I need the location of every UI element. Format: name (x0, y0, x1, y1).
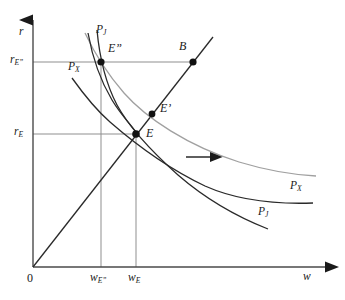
curve-label-pj-top: PJ (96, 24, 106, 37)
w-axis-label: w (303, 271, 311, 283)
diagram-svg (0, 0, 345, 300)
tick-label-w-low: wE” (90, 272, 107, 285)
curve-label-px-right: PX (290, 180, 302, 193)
curve-px-right-sub: X (297, 184, 302, 193)
point-B-marker (189, 58, 196, 65)
point-label-E: E (146, 127, 153, 139)
curve-px (72, 78, 313, 203)
curve-pj-right-sub: J (265, 210, 268, 219)
point-label-E1: E’ (160, 102, 171, 114)
figure-canvas: r w 0 rE” rE wE” wE E” B E’ E PJ PX PX P… (0, 0, 345, 300)
point-label-B: B (179, 40, 186, 52)
tick-w-high-sub: E (136, 276, 141, 285)
curve-px-top-base: P (68, 60, 75, 72)
curve-label-pj-right: PJ (258, 206, 268, 219)
tick-label-w-high: wE (128, 272, 140, 285)
origin-label: 0 (27, 272, 33, 284)
curve-px-right-base: P (290, 179, 297, 191)
tick-w-low-base: w (90, 271, 98, 283)
curve-label-px-top: PX (68, 61, 80, 74)
axis-lines (33, 20, 325, 267)
curve-px-top-sub: X (75, 65, 80, 74)
point-E1-marker (149, 111, 156, 118)
ray-origin-E-B (33, 37, 213, 267)
curve-pj-top-base: P (96, 23, 103, 35)
point-E2-marker (97, 58, 104, 65)
tick-label-r-high: rE” (10, 54, 23, 67)
tick-r-low-sub: E (18, 130, 23, 139)
r-axis-label: r (19, 26, 23, 38)
tick-r-high-sub: E” (14, 58, 23, 67)
tick-w-high-base: w (128, 271, 136, 283)
curve-pj (97, 30, 268, 229)
curve-pj-right-base: P (258, 205, 265, 217)
point-E-marker (132, 130, 140, 138)
tick-label-r-low: rE (14, 126, 23, 139)
tick-w-low-sub: E” (98, 276, 107, 285)
curve-pj-top-sub: J (103, 28, 106, 37)
point-label-E2: E” (108, 42, 122, 54)
